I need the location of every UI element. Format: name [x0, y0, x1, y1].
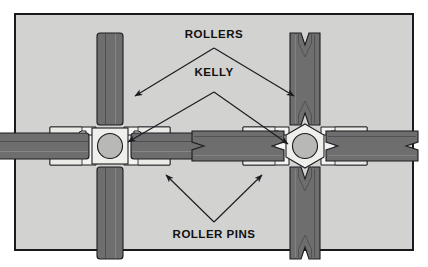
label-kelly: KELLY [0, 66, 428, 78]
roller-left [192, 131, 284, 161]
roller-right [326, 131, 418, 161]
leader-pins-left [166, 175, 214, 222]
diagram-page: ROLLERS KELLY ROLLER PINS [0, 0, 428, 267]
roller-bottom [97, 167, 123, 259]
roller-left [0, 133, 89, 159]
label-roller-pins: ROLLER PINS [0, 228, 428, 240]
roller-top [290, 33, 320, 125]
kelly-bore [98, 134, 123, 159]
roller-bottom [290, 167, 320, 259]
kelly-bore [293, 134, 318, 159]
diagram-canvas [0, 0, 428, 267]
label-rollers: ROLLERS [0, 28, 428, 40]
leader-pins-right [214, 175, 262, 222]
roller-top [97, 33, 123, 125]
